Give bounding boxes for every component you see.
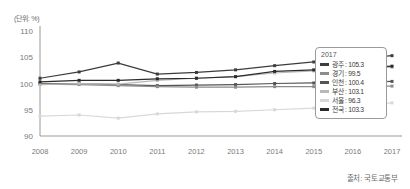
- svg-text:2016: 2016: [345, 147, 362, 156]
- svg-text:2017: 2017: [384, 147, 401, 156]
- legend-item-label: 광주 : 105.3: [332, 60, 364, 69]
- legend-item-경기: 경기 : 99.5: [320, 69, 382, 78]
- legend-rows: 광주 : 105.3경기 : 99.5인천 : 100.4부산 : 103.1서…: [320, 60, 382, 114]
- svg-text:90: 90: [24, 132, 33, 141]
- y-axis-ticks: 9095100105110: [20, 27, 34, 141]
- svg-text:2015: 2015: [305, 147, 322, 156]
- legend-swatch-icon: [320, 81, 329, 84]
- legend-swatch-icon: [320, 108, 329, 111]
- legend-title: 2017: [321, 51, 382, 59]
- regional-index-line-chart: (단위: %) 90951001051102008200920102011201…: [0, 0, 410, 189]
- legend-swatch-icon: [320, 63, 329, 66]
- svg-text:95: 95: [24, 106, 33, 115]
- legend-item-부산: 부산 : 103.1: [320, 87, 382, 96]
- legend-item-label: 경기 : 99.5: [332, 69, 360, 78]
- svg-text:2010: 2010: [110, 147, 127, 156]
- svg-text:110: 110: [20, 27, 33, 36]
- legend-item-label: 서울 : 96.3: [332, 96, 360, 105]
- svg-text:2011: 2011: [149, 147, 165, 156]
- legend-item-label: 부산 : 103.1: [332, 87, 364, 96]
- svg-text:2012: 2012: [188, 147, 205, 156]
- x-axis-ticks: 2008200920102011201220132014201520162017: [32, 147, 401, 156]
- svg-text:2008: 2008: [32, 147, 49, 156]
- legend-swatch-icon: [320, 72, 329, 75]
- legend-swatch-icon: [320, 90, 329, 93]
- legend-item-인천: 인천 : 100.4: [320, 78, 382, 87]
- svg-text:2009: 2009: [71, 147, 88, 156]
- svg-text:100: 100: [20, 80, 34, 89]
- legend-item-label: 전국 : 103.3: [332, 105, 364, 114]
- legend-swatch-icon: [320, 99, 329, 102]
- legend-item-서울: 서울 : 96.3: [320, 96, 382, 105]
- legend-box: 2017 광주 : 105.3경기 : 99.5인천 : 100.4부산 : 1…: [315, 47, 387, 119]
- svg-text:2014: 2014: [266, 147, 283, 156]
- svg-text:2013: 2013: [227, 147, 244, 156]
- svg-text:105: 105: [20, 53, 34, 62]
- source-note: 출처: 국토교통부: [347, 172, 398, 183]
- legend-item-전국: 전국 : 103.3: [320, 105, 382, 114]
- legend-item-label: 인천 : 100.4: [332, 78, 364, 87]
- legend-item-광주: 광주 : 105.3: [320, 60, 382, 69]
